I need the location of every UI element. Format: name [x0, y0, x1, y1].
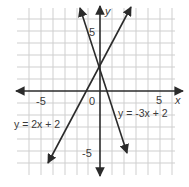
tick-x-neg5: -5	[36, 95, 46, 107]
tick-y-neg5: -5	[82, 147, 92, 159]
tick-x-pos5: 5	[156, 94, 162, 106]
equation-label-line1: y = 2x + 2	[14, 118, 60, 130]
tick-origin: 0	[89, 95, 95, 107]
coordinate-plane: -5 0 5 5 -5 x y y = 2x + 2 y = -3x + 2	[0, 0, 189, 187]
tick-y-pos5: 5	[89, 26, 95, 38]
line-y-neg3x-plus-2	[80, 8, 127, 153]
equation-label-line2: y = -3x + 2	[118, 107, 168, 119]
x-axis-label: x	[174, 94, 181, 106]
y-axis-label: y	[104, 5, 112, 17]
